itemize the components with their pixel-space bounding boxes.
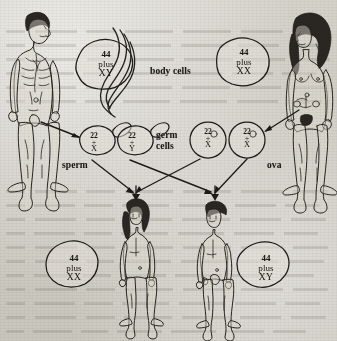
- daughter-body-cell-text: 44 plus XX: [51, 254, 97, 283]
- son-body-cell-chromosomes: XY: [243, 273, 289, 283]
- ova-label: ova: [267, 160, 282, 171]
- mother-figure: [283, 13, 337, 213]
- daughter-body-cell-chromosomes: XX: [51, 273, 97, 283]
- ovum-x-2-chromosome: X: [233, 141, 261, 149]
- father-figure: [8, 12, 68, 211]
- diagram-page: 44 plus XY 44 plus XX 44 plus XX 44 plus…: [0, 0, 337, 341]
- arrow-sperm-x-to-daughter: [92, 160, 135, 194]
- sperm-x-text: 22 + X: [80, 132, 108, 153]
- ovum-x-1-chromosome: X: [194, 141, 222, 149]
- son-body-cell-text: 44 plus XY: [243, 254, 289, 283]
- sperm-y-text: 22 + Y: [118, 132, 146, 153]
- sperm-x-chromosome: X: [80, 145, 108, 153]
- arrow-ovum-to-son: [214, 159, 247, 194]
- mother-body-cell-text: 44 plus XX: [221, 48, 267, 77]
- sperm-label: sperm: [62, 160, 88, 171]
- germ-cells-label: germ cells: [156, 130, 196, 151]
- father-body-cell-chromosomes: XY: [82, 69, 130, 79]
- son-figure: [196, 201, 240, 341]
- mother-body-cell-chromosomes: XX: [221, 67, 267, 77]
- ovum-x-1-text: 22 + X: [194, 128, 222, 149]
- daughter-figure: [119, 199, 163, 339]
- arrow-father-to-sperm: [41, 122, 80, 138]
- father-body-cell-text: 44 plus XY: [82, 50, 130, 79]
- diagram-artwork: [0, 0, 337, 341]
- arrow-ovum-to-daughter: [135, 159, 200, 194]
- body-cells-label: body cells: [150, 66, 191, 77]
- ovum-x-2-text: 22 + X: [233, 128, 261, 149]
- sperm-y-chromosome: Y: [118, 145, 146, 153]
